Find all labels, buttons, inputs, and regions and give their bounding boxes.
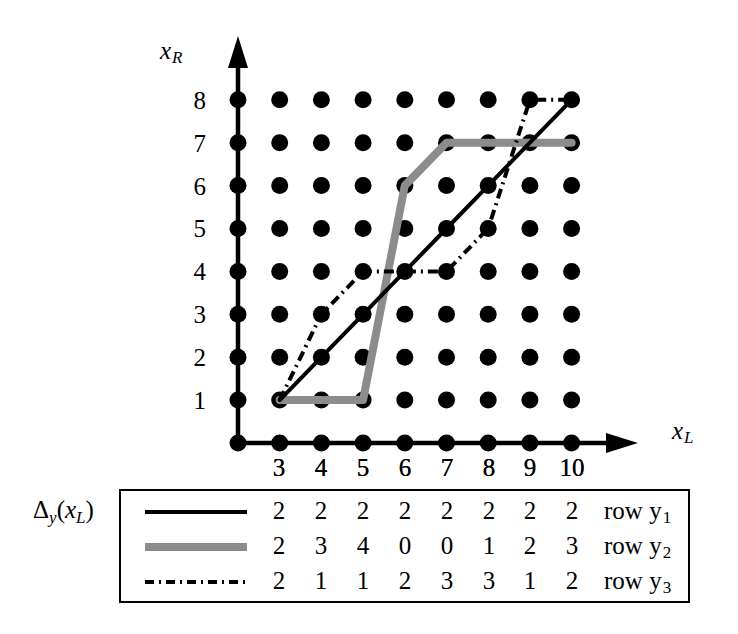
legend-row-label-2: row y2 bbox=[604, 533, 671, 561]
x-axis-arrowhead bbox=[606, 433, 638, 453]
legend-colhead-3: 3 bbox=[259, 455, 299, 480]
legend-row-label-3-text: row y bbox=[604, 567, 662, 594]
delta-argument-subscript: L bbox=[76, 508, 85, 527]
lattice-dot bbox=[355, 134, 372, 151]
legend-r1-c8: 2 bbox=[469, 498, 509, 523]
legend-colhead-6: 6 bbox=[385, 455, 425, 480]
lattice-dot bbox=[521, 220, 538, 237]
legend-row-label-1-subscript: 1 bbox=[663, 508, 672, 527]
lattice-dot bbox=[230, 349, 247, 366]
legend-colhead-8: 8 bbox=[469, 455, 509, 480]
lattice-dot bbox=[271, 435, 288, 452]
lattice-dot bbox=[396, 306, 413, 323]
legend-colhead-4: 4 bbox=[301, 455, 341, 480]
legend-row-label-3: row y3 bbox=[604, 568, 671, 596]
legend-r1-c5: 2 bbox=[343, 498, 383, 523]
lattice-dot bbox=[396, 134, 413, 151]
lattice-dot bbox=[480, 349, 497, 366]
legend-r3-c9: 1 bbox=[510, 568, 550, 593]
legend-row-label-1-text: row y bbox=[604, 497, 662, 524]
lattice-dot bbox=[355, 177, 372, 194]
lattice-dot bbox=[230, 392, 247, 409]
lattice-dot bbox=[355, 91, 372, 108]
legend-row-label-3-subscript: 3 bbox=[663, 578, 672, 597]
legend-colhead-9: 9 bbox=[510, 455, 550, 480]
legend-colhead-7: 7 bbox=[427, 455, 467, 480]
legend-r1-c3: 2 bbox=[259, 498, 299, 523]
delta-symbol: Δ bbox=[33, 496, 49, 523]
lattice-dot bbox=[480, 263, 497, 280]
lattice-dot bbox=[396, 349, 413, 366]
lattice-dot bbox=[563, 263, 580, 280]
lattice-dot bbox=[313, 263, 330, 280]
y-axis-arrowhead bbox=[228, 36, 248, 68]
lattice-dot bbox=[271, 263, 288, 280]
legend-r1-c6: 2 bbox=[385, 498, 425, 523]
lattice-dot bbox=[563, 435, 580, 452]
legend-r3-c4: 1 bbox=[301, 568, 341, 593]
lattice-dot bbox=[271, 91, 288, 108]
legend-r2-c8: 1 bbox=[469, 533, 509, 558]
legend-r1-c10: 2 bbox=[552, 498, 592, 523]
lattice-dot bbox=[438, 91, 455, 108]
lattice-dot bbox=[396, 91, 413, 108]
lattice-dot bbox=[563, 220, 580, 237]
legend-colhead-10: 10 bbox=[552, 455, 592, 480]
legend-r1-c7: 2 bbox=[427, 498, 467, 523]
lattice-dot bbox=[313, 220, 330, 237]
legend-r1-c9: 2 bbox=[510, 498, 550, 523]
legend-r3-c10: 2 bbox=[552, 568, 592, 593]
lattice-dot bbox=[521, 306, 538, 323]
lattice-dot bbox=[271, 306, 288, 323]
lattice-dot bbox=[313, 177, 330, 194]
lattice-dot bbox=[271, 134, 288, 151]
legend-r3-c7: 3 bbox=[427, 568, 467, 593]
lattice-dot bbox=[313, 91, 330, 108]
lattice-dot bbox=[563, 177, 580, 194]
lattice-dot bbox=[230, 134, 247, 151]
lattice-dot bbox=[521, 349, 538, 366]
legend-r2-c4: 3 bbox=[301, 533, 341, 558]
lattice-dot bbox=[230, 435, 247, 452]
legend-r2-c5: 4 bbox=[343, 533, 383, 558]
lattice-dot bbox=[438, 435, 455, 452]
lattice-dot bbox=[230, 177, 247, 194]
lattice-dot bbox=[396, 392, 413, 409]
legend-r2-c3: 2 bbox=[259, 533, 299, 558]
lattice-dot bbox=[355, 220, 372, 237]
delta-paren-open: ( bbox=[57, 496, 65, 523]
legend-r2-c9: 2 bbox=[510, 533, 550, 558]
legend-row-label-1: row y1 bbox=[604, 498, 671, 526]
lattice-dot bbox=[480, 306, 497, 323]
delta-argument: x bbox=[65, 496, 76, 523]
legend-r2-c6: 0 bbox=[385, 533, 425, 558]
lattice-dot bbox=[355, 435, 372, 452]
lattice-dot bbox=[271, 177, 288, 194]
lattice-dot bbox=[230, 263, 247, 280]
legend-row-label-2-subscript: 2 bbox=[663, 543, 672, 562]
delta-subscript: y bbox=[49, 508, 57, 527]
lattice-dot bbox=[438, 177, 455, 194]
figure-canvas: xR xL 8 7 6 5 4 3 2 1 3 4 5 6 7 8 9 10 Δ… bbox=[0, 0, 738, 634]
lattice-dot bbox=[563, 349, 580, 366]
lattice-dot bbox=[313, 134, 330, 151]
legend-r3-c5: 1 bbox=[343, 568, 383, 593]
legend-colhead-5: 5 bbox=[343, 455, 383, 480]
lattice-dot bbox=[230, 220, 247, 237]
lattice-dot bbox=[521, 435, 538, 452]
lattice-dot bbox=[480, 392, 497, 409]
legend-r2-c10: 3 bbox=[552, 533, 592, 558]
lattice-dot bbox=[521, 263, 538, 280]
lattice-dot bbox=[271, 349, 288, 366]
lattice-dot bbox=[313, 435, 330, 452]
lattice-dot bbox=[230, 91, 247, 108]
lattice-dot bbox=[230, 306, 247, 323]
lattice-dot bbox=[480, 435, 497, 452]
delta-paren-close: ) bbox=[86, 496, 94, 523]
lattice-dot bbox=[563, 392, 580, 409]
lattice-dot bbox=[438, 392, 455, 409]
legend-r3-c3: 2 bbox=[259, 568, 299, 593]
delta-function-label: Δy(xL) bbox=[33, 497, 94, 526]
legend-r3-c8: 3 bbox=[469, 568, 509, 593]
lattice-dot bbox=[271, 220, 288, 237]
